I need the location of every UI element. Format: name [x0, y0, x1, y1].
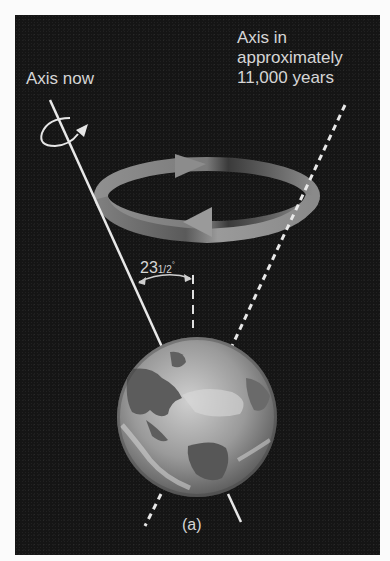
current-axis-line-lower	[228, 494, 241, 522]
axis-future-label: Axis in approximately 11,000 years	[237, 28, 343, 88]
figure-caption: (a)	[182, 516, 202, 534]
tilt-angle-main: 23	[140, 259, 158, 276]
degree-symbol: °	[172, 260, 175, 269]
axis-future-label-line-2: approximately	[237, 48, 343, 68]
future-axis-line-lower	[145, 494, 161, 526]
earth-globe	[117, 337, 277, 497]
axis-future-label-line-3: 11,000 years	[237, 68, 343, 88]
precession-ring	[101, 154, 313, 237]
axis-now-label: Axis now	[26, 69, 94, 89]
tilt-angle-label: 231/2°	[140, 256, 175, 279]
axis-future-label-line-1: Axis in	[237, 28, 343, 48]
tilt-angle-fraction: 1/2	[158, 264, 172, 275]
